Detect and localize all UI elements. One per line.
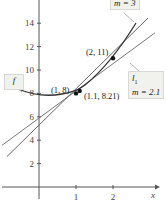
f-callout: f <box>4 74 24 90</box>
l1-callout: l1 m = 2.1 <box>128 71 164 99</box>
point-label-1-8: (1, 8) <box>51 85 70 95</box>
secant-line <box>7 18 148 157</box>
secant-callout-pointer <box>124 13 134 22</box>
y-tick-label-2: 2 <box>30 159 35 169</box>
point-1-8 <box>74 91 78 95</box>
chart-plot: 2 4 6 8 10 12 14 1 2 x (1, 8) (1.1, 8.21… <box>0 0 167 209</box>
point-1.1-8.21 <box>78 89 82 93</box>
y-tick-label-12: 12 <box>25 42 34 52</box>
point-label-1.1-8.21: (1.1, 8.21) <box>84 91 120 101</box>
function-f-curve <box>18 23 136 95</box>
point-2-11 <box>111 56 115 60</box>
y-tick-label-4: 4 <box>30 135 35 145</box>
x-tick-label-2: 2 <box>111 192 116 202</box>
y-tick-label-10: 10 <box>25 65 35 75</box>
x-tick-label-1: 1 <box>74 192 79 202</box>
l1-slope-label: m = 2.1 <box>132 87 160 97</box>
y-tick-label-14: 14 <box>25 18 35 28</box>
point-label-2-11: (2, 11) <box>86 47 109 57</box>
secant-slope-label: m = 3 <box>114 0 136 8</box>
l1-name: l1 <box>132 73 160 87</box>
secant-slope-callout: m = 3 <box>110 0 140 10</box>
y-tick-label-6: 6 <box>30 112 35 122</box>
f-label: f <box>13 75 16 85</box>
x-axis-arrow-icon <box>155 185 160 190</box>
x-axis-label: x <box>150 190 155 200</box>
